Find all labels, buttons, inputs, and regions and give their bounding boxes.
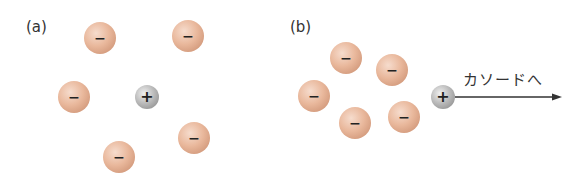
plus-sign: + [140, 89, 153, 105]
cation-icon: + [135, 85, 159, 109]
cation-icon: + [431, 85, 455, 109]
arrow-label: カソードへ [463, 68, 543, 89]
plus-sign: + [436, 89, 449, 105]
